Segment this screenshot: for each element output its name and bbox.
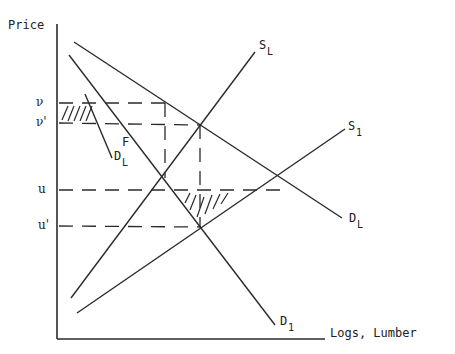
price-label-v-prime: ν' <box>36 115 47 129</box>
svg-text:S: S <box>259 38 266 52</box>
price-line-v-prime <box>59 123 200 125</box>
svg-text:L: L <box>122 157 128 168</box>
x-axis-label: Logs, Lumber <box>330 326 417 340</box>
y-axis-label: Price <box>8 18 44 32</box>
svg-text:1: 1 <box>288 322 294 333</box>
label-d1: D 1 <box>280 314 294 333</box>
hatched-area-upper <box>62 106 92 121</box>
svg-text:1: 1 <box>356 127 362 138</box>
svg-text:D: D <box>280 314 287 328</box>
label-s1: S 1 <box>348 119 362 138</box>
label-dl-small: D L <box>114 149 128 168</box>
svg-text:L: L <box>357 219 363 230</box>
demand-curve-dl <box>74 42 342 218</box>
label-sl: S L <box>259 38 273 57</box>
supply-curve-sl <box>71 52 255 298</box>
price-label-u: u <box>38 182 46 196</box>
price-label-u-prime: u' <box>38 218 49 232</box>
price-line-u-prime <box>59 226 201 227</box>
svg-text:L: L <box>267 46 273 57</box>
svg-text:D: D <box>114 149 121 163</box>
label-dl: D L <box>349 211 363 230</box>
point-f-label: F <box>122 135 129 149</box>
svg-text:S: S <box>348 119 355 133</box>
price-label-v: ν <box>36 95 43 109</box>
svg-text:D: D <box>349 211 356 225</box>
supply-demand-diagram: Price Logs, Lumber ν ν' u u' S L S 1 D L… <box>0 0 455 354</box>
